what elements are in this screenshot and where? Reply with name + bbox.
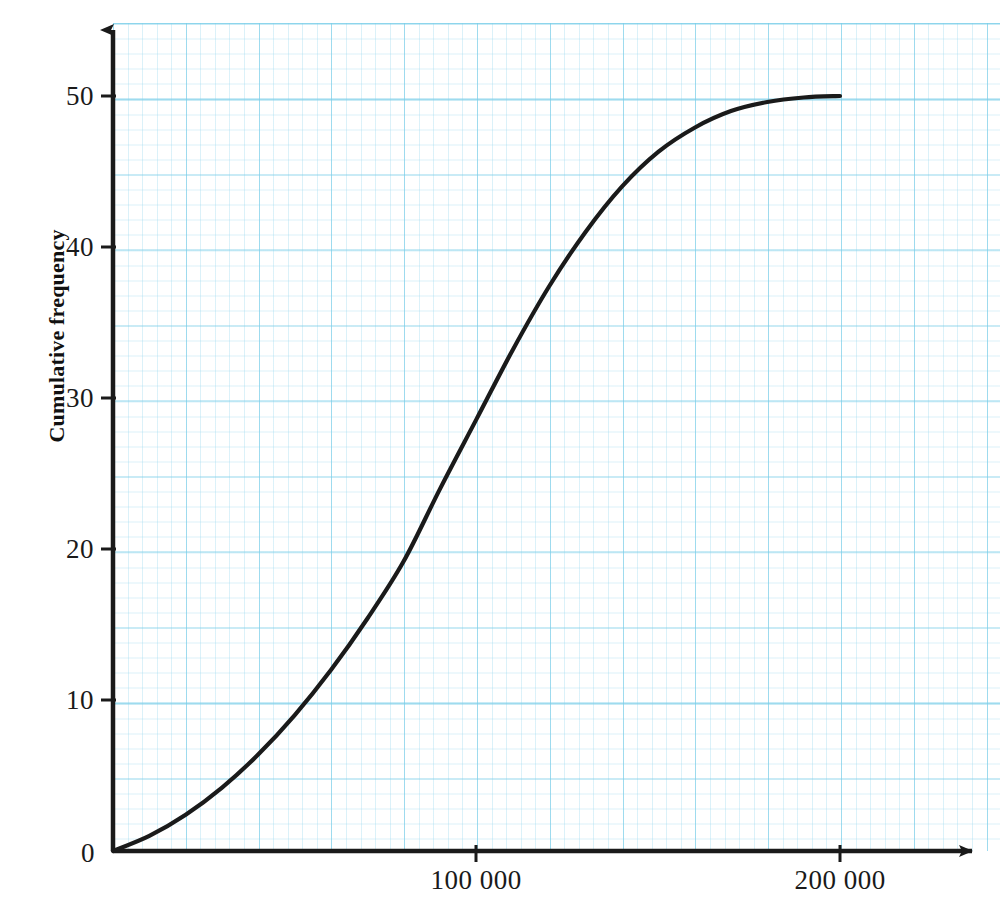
x-tick-label-100000: 100 000: [386, 865, 566, 896]
x-tick-marks: [476, 845, 840, 862]
y-axis-title: Cumulative frequency: [44, 191, 70, 481]
origin-label: 0: [81, 838, 95, 869]
x-tick-label-200000: 200 000: [750, 865, 930, 896]
cumulative-frequency-curve: [113, 96, 840, 851]
y-tick-label-50: 50: [40, 81, 94, 112]
plot-area: [0, 0, 1000, 919]
y-tick-label-20: 20: [40, 534, 94, 565]
y-tick-label-10: 10: [40, 685, 94, 716]
cumulative-frequency-chart: 50 40 30 20 10 0 100 000 200 000 Cumulat…: [0, 0, 1000, 919]
